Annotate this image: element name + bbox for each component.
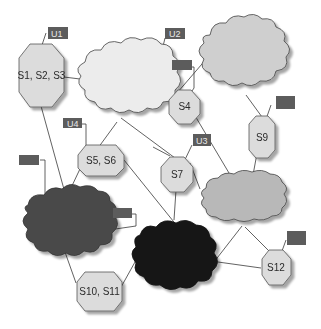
node-s12[interactable]: S12 <box>262 250 291 285</box>
tag-blank-s12 <box>287 231 306 245</box>
cloud-top-right <box>199 14 290 85</box>
node-label: S5, S6 <box>86 155 116 166</box>
node-s9[interactable]: S9 <box>249 116 275 158</box>
svg-text:U3: U3 <box>196 136 208 146</box>
tag-blank-s9 <box>276 96 295 109</box>
node-label: S7 <box>171 169 184 180</box>
node-label: S10, S11 <box>79 286 120 297</box>
node-s4[interactable]: S4 <box>169 90 200 124</box>
tag-u2: U2 <box>165 28 185 39</box>
node-label: S1, S2, S3 <box>18 70 66 81</box>
node-label: S12 <box>267 262 285 273</box>
tag-u1: U1 <box>48 27 68 39</box>
cloud-bottom-left <box>23 184 118 255</box>
node-s5-s6[interactable]: S5, S6 <box>78 145 124 176</box>
svg-text:U1: U1 <box>51 29 63 39</box>
node-s1-s2-s3[interactable]: S1, S2, S3 <box>18 44 66 107</box>
node-label: S9 <box>256 132 269 143</box>
node-label: S4 <box>178 101 191 112</box>
cloud-right-middle <box>201 170 286 221</box>
cloud-bottom-center <box>132 220 218 289</box>
svg-text:U4: U4 <box>67 119 79 129</box>
network-diagram: S1, S2, S3 S4 S5, S6 S7 S9 S10, S11 S12 … <box>0 0 321 329</box>
tag-u4: U4 <box>63 118 82 129</box>
node-s10-s11[interactable]: S10, S11 <box>77 272 122 311</box>
tag-blank-center <box>113 208 132 218</box>
tag-blank-left-cloud <box>19 155 39 165</box>
svg-text:U2: U2 <box>169 29 181 39</box>
tag-blank-s4 <box>172 60 192 70</box>
node-s7[interactable]: S7 <box>161 157 193 192</box>
cloud-top-center <box>78 38 181 113</box>
tag-u3: U3 <box>193 134 211 146</box>
